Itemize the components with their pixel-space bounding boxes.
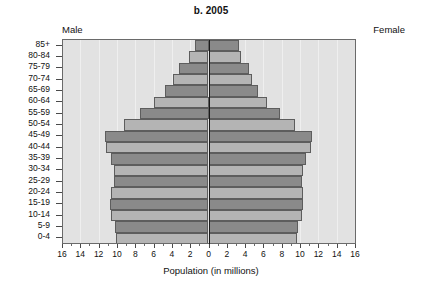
y-tick xyxy=(56,79,62,80)
y-tick xyxy=(56,67,62,68)
x-tick-major xyxy=(337,244,338,248)
bar-male-40-44 xyxy=(106,142,209,153)
y-tick-label-50-54: 50-54 xyxy=(28,119,50,128)
y-tick-label-5-9: 5-9 xyxy=(38,221,50,230)
center-axis-line xyxy=(209,40,210,244)
x-tick-label: 8 xyxy=(133,249,138,259)
y-axis xyxy=(55,39,62,244)
bar-male-75-79 xyxy=(179,63,208,74)
x-tick-major xyxy=(190,244,191,248)
x-tick-minor xyxy=(163,244,164,246)
x-tick-major xyxy=(80,244,81,248)
female-side-label: Female xyxy=(373,24,405,35)
x-tick-minor xyxy=(236,244,237,246)
bar-male-35-39 xyxy=(111,153,208,164)
x-tick-minor xyxy=(181,244,182,246)
bar-male-55-59 xyxy=(140,108,209,119)
x-tick-major xyxy=(318,244,319,248)
x-tick-major xyxy=(99,244,100,248)
x-tick-label: 12 xyxy=(314,249,323,259)
bar-male-5-9 xyxy=(115,221,208,232)
bar-male-15-19 xyxy=(110,199,209,210)
bar-male-45-49 xyxy=(105,131,208,142)
bar-female-30-34 xyxy=(209,165,303,176)
y-tick xyxy=(56,169,62,170)
bar-female-70-74 xyxy=(209,74,253,85)
male-side-label: Male xyxy=(62,24,83,35)
x-tick-major xyxy=(135,244,136,248)
bar-female-85+ xyxy=(209,40,239,51)
y-tick-label-20-24: 20-24 xyxy=(28,187,50,196)
y-tick xyxy=(56,90,62,91)
x-tick-minor xyxy=(346,244,347,246)
x-tick-minor xyxy=(89,244,90,246)
x-tick-major xyxy=(117,244,118,248)
x-tick-label: 14 xyxy=(76,249,85,259)
y-tick-label-30-34: 30-34 xyxy=(28,164,50,173)
bar-female-10-14 xyxy=(209,210,302,221)
bar-female-50-54 xyxy=(209,119,295,130)
x-tick-minor xyxy=(273,244,274,246)
x-tick-minor xyxy=(199,244,200,246)
y-tick-label-15-19: 15-19 xyxy=(28,198,50,207)
x-tick-major xyxy=(227,244,228,248)
x-tick-minor xyxy=(218,244,219,246)
y-tick xyxy=(56,56,62,57)
bar-male-80-84 xyxy=(189,51,208,62)
x-axis-title: Population (in millions) xyxy=(0,265,422,276)
x-tick-label: 10 xyxy=(295,249,304,259)
x-tick-major xyxy=(209,244,210,248)
y-tick-label-45-49: 45-49 xyxy=(28,130,50,139)
bar-male-10-14 xyxy=(111,210,209,221)
x-tick-major xyxy=(282,244,283,248)
x-tick-label: 10 xyxy=(112,249,121,259)
y-tick xyxy=(56,101,62,102)
x-tick-minor xyxy=(144,244,145,246)
plot-area xyxy=(62,39,356,244)
y-tick-label-0-4: 0-4 xyxy=(38,232,50,241)
x-tick-label: 2 xyxy=(224,249,229,259)
y-tick-label-40-44: 40-44 xyxy=(28,142,50,151)
x-tick-major xyxy=(154,244,155,248)
x-tick-label: 0 xyxy=(206,249,211,259)
x-tick-major xyxy=(263,244,264,248)
x-tick-minor xyxy=(126,244,127,246)
y-tick-label-75-79: 75-79 xyxy=(28,62,50,71)
y-tick xyxy=(56,203,62,204)
chart-title: b. 2005 xyxy=(0,5,422,16)
y-tick xyxy=(56,124,62,125)
x-tick-minor xyxy=(254,244,255,246)
y-tick-label-55-59: 55-59 xyxy=(28,108,50,117)
x-tick-minor xyxy=(328,244,329,246)
y-tick xyxy=(56,147,62,148)
bar-female-55-59 xyxy=(209,108,280,119)
plot-inner xyxy=(62,40,355,244)
x-tick-label: 4 xyxy=(243,249,248,259)
y-tick-label-70-74: 70-74 xyxy=(28,74,50,83)
bar-male-25-29 xyxy=(114,176,208,187)
bar-male-65-69 xyxy=(165,85,209,96)
x-tick-label: 14 xyxy=(332,249,341,259)
y-tick-label-25-29: 25-29 xyxy=(28,176,50,185)
x-tick-label: 8 xyxy=(279,249,284,259)
bar-female-45-49 xyxy=(209,131,312,142)
y-tick xyxy=(56,45,62,46)
x-tick-label: 16 xyxy=(57,249,66,259)
x-tick-label: 16 xyxy=(350,249,359,259)
y-tick-label-60-64: 60-64 xyxy=(28,96,50,105)
y-tick-label-35-39: 35-39 xyxy=(28,153,50,162)
y-tick xyxy=(56,135,62,136)
x-tick-label: 6 xyxy=(261,249,266,259)
x-tick-label: 6 xyxy=(151,249,156,259)
bar-female-60-64 xyxy=(209,97,268,108)
y-tick-label-65-69: 65-69 xyxy=(28,85,50,94)
x-tick-label: 12 xyxy=(94,249,103,259)
bar-female-25-29 xyxy=(209,176,302,187)
bar-male-20-24 xyxy=(111,187,208,198)
bar-female-20-24 xyxy=(209,187,303,198)
x-tick-label: 2 xyxy=(188,249,193,259)
y-tick-label-85+: 85+ xyxy=(36,40,50,49)
bar-female-5-9 xyxy=(209,221,299,232)
y-tick-label-10-14: 10-14 xyxy=(28,210,50,219)
bar-female-75-79 xyxy=(209,63,249,74)
